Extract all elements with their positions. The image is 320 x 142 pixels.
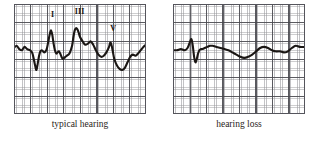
peak-label-wave-iii: III: [75, 8, 85, 16]
caption-typical-hearing: typical hearing: [14, 119, 146, 129]
peak-label-wave-i: I: [51, 11, 54, 19]
peak-label-wave-v: V: [110, 25, 116, 33]
waveform-trace-typical: [14, 4, 146, 114]
abr-waveform-figure: I III V typical hearing hearing loss: [0, 0, 320, 142]
chart-panel-typical-hearing: I III V: [14, 4, 146, 114]
chart-panel-hearing-loss: [173, 4, 305, 114]
caption-hearing-loss: hearing loss: [173, 119, 305, 129]
waveform-trace-hearing-loss: [173, 4, 305, 114]
